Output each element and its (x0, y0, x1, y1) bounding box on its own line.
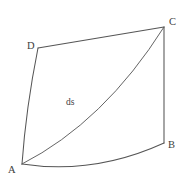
vertex-label-a: A (8, 165, 16, 176)
vertex-label-d: D (27, 41, 35, 52)
vertex-label-c: C (169, 17, 176, 28)
figure-canvas: A B C D ds (0, 0, 188, 186)
diagonal-length-label-ds: ds (66, 98, 74, 108)
edge-d-a (22, 48, 38, 164)
edge-a-b (22, 143, 164, 167)
vertex-label-b: B (168, 140, 175, 151)
edge-c-d (38, 27, 164, 48)
quadrilateral-diagram (0, 0, 188, 186)
